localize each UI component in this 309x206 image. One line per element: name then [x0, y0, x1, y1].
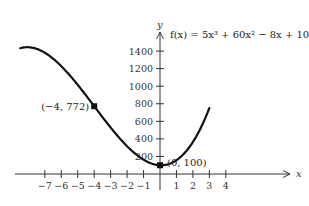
x-tick-label: 3: [206, 180, 212, 191]
x-tick-label: 1: [173, 180, 179, 191]
point-marker: [91, 103, 97, 109]
x-tick-label: −3: [104, 180, 118, 191]
y-tick-label: 1200: [129, 63, 153, 74]
y-tick-label: 600: [135, 116, 153, 127]
function-label: f(x) = 5x³ + 60x² − 8x + 100: [170, 29, 309, 40]
point-marker: [157, 162, 163, 168]
point-label: (−4, 772): [41, 101, 89, 112]
y-axis-ticks: 200400600800100012001400: [129, 46, 164, 162]
y-tick-label: 400: [135, 133, 153, 144]
y-tick-label: 1400: [129, 46, 153, 57]
point-label: (0, 100): [167, 157, 207, 168]
x-axis-label: x: [296, 168, 302, 179]
x-tick-label: −6: [54, 180, 68, 191]
marked-points: (−4, 772)(0, 100): [41, 101, 207, 169]
y-tick-label: 1000: [129, 81, 153, 92]
y-axis-label: y: [156, 19, 163, 30]
x-tick-label: 4: [223, 180, 229, 191]
function-graph: x y −7−6−5−4−3−2−11234 20040060080010001…: [0, 0, 309, 206]
x-tick-label: −1: [137, 180, 151, 191]
x-tick-label: −7: [38, 180, 52, 191]
x-tick-label: −5: [71, 180, 85, 191]
x-tick-label: 2: [190, 180, 196, 191]
x-tick-label: −4: [87, 180, 101, 191]
y-tick-label: 800: [135, 98, 153, 109]
x-axis-ticks: −7−6−5−4−3−2−11234: [38, 170, 229, 191]
x-tick-label: −2: [120, 180, 134, 191]
